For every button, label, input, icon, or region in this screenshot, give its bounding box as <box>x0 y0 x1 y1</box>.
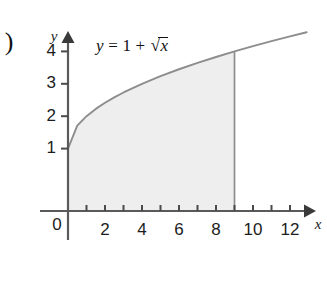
x-axis-tick-labels: 24681012 <box>100 220 299 239</box>
y-axis-tick-label: 3 <box>47 73 56 92</box>
x-axis-tick-label: 12 <box>281 220 300 239</box>
equation-radicand: x <box>160 36 168 55</box>
y-axis-tick-labels: 1234 <box>47 41 56 157</box>
equation-lhs: y <box>96 36 104 55</box>
origin-zero-label: 0 <box>52 215 61 234</box>
x-axis-tick-label: 2 <box>100 220 109 239</box>
shaded-area-under-curve <box>68 51 235 211</box>
equation-plus: + <box>136 36 146 55</box>
figure-container: 24681012 1234 0 y x ) y = 1 + √x <box>0 0 327 298</box>
equation-constant: 1 <box>122 36 131 55</box>
y-axis-tick-label: 2 <box>47 106 56 125</box>
x-axis-tick-label: 10 <box>244 220 263 239</box>
problem-marker: ) <box>5 27 14 56</box>
equation-annotation: y = 1 + √x <box>96 36 168 56</box>
equation-equals: = <box>108 36 118 55</box>
x-axis-tick-label: 4 <box>137 220 146 239</box>
y-axis-label: y <box>49 28 58 44</box>
y-axis-tick-label: 1 <box>47 138 56 157</box>
radical-sign-icon: √ <box>151 36 161 55</box>
x-axis-tick-label: 6 <box>174 220 183 239</box>
x-axis-label: x <box>314 216 322 232</box>
x-axis-tick-label: 8 <box>211 220 220 239</box>
equation-radical: √x <box>150 36 168 56</box>
radical-vinculum <box>158 37 168 38</box>
y-axis-arrow-icon <box>62 31 75 43</box>
